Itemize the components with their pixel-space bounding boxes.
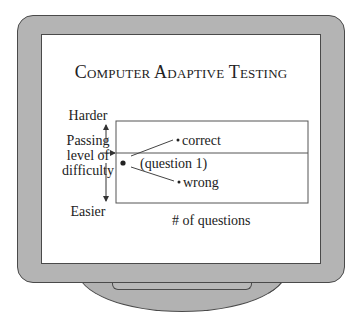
x-axis-label: # of questions [172, 213, 251, 228]
question-1-dot [120, 160, 125, 165]
label-wrong: wrong [183, 175, 219, 190]
correct-dot [177, 139, 180, 142]
label-correct: correct [182, 133, 221, 148]
label-question-1: (question 1) [140, 156, 207, 171]
branch-correct-line [131, 140, 173, 156]
wrong-dot [178, 181, 181, 184]
